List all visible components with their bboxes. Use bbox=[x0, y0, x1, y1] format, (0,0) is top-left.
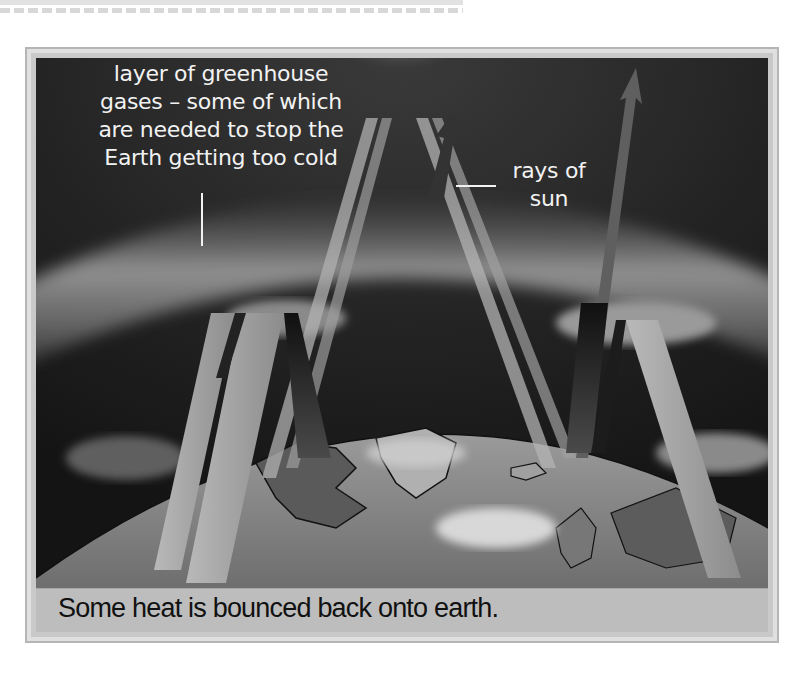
greenhouse-label-line-2: gases – some of which bbox=[56, 88, 386, 116]
diagram-frame: layer of greenhouse gases – some of whic… bbox=[25, 47, 779, 643]
greenhouse-effect-illustration: layer of greenhouse gases – some of whic… bbox=[36, 58, 768, 588]
greenhouse-label-line-1: layer of greenhouse bbox=[56, 60, 386, 88]
rays-label-line-1: rays of bbox=[504, 157, 594, 185]
page-top-divider bbox=[0, 0, 463, 14]
caption-bar: Some heat is bounced back onto earth. bbox=[36, 588, 768, 632]
rays-label-line-2: sun bbox=[504, 185, 594, 213]
greenhouse-label-line-3: are needed to stop the bbox=[56, 116, 386, 144]
caption-text: Some heat is bounced back onto earth. bbox=[58, 593, 498, 624]
dashed-divider bbox=[0, 8, 463, 13]
rays-of-sun-label: rays of sun bbox=[504, 157, 594, 213]
greenhouse-layer-label: layer of greenhouse gases – some of whic… bbox=[56, 60, 386, 172]
divider-strip bbox=[0, 0, 463, 5]
greenhouse-label-line-4: Earth getting too cold bbox=[56, 144, 386, 172]
